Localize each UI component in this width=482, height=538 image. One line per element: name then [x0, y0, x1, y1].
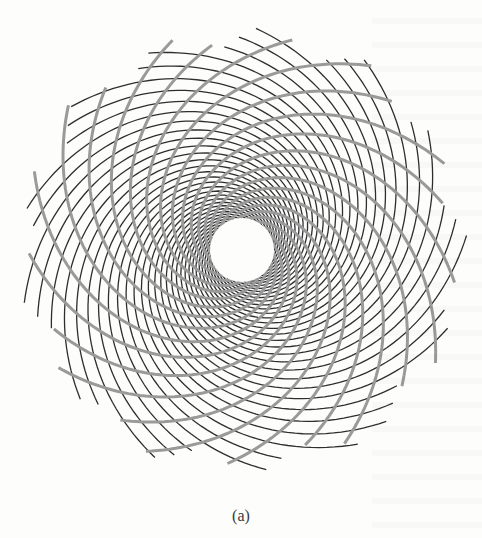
figure-caption: (a): [0, 507, 482, 525]
phyllotaxis-spiral-diagram: [0, 0, 482, 505]
center-hollow: [210, 218, 274, 282]
spiral-figure: (a): [0, 0, 482, 538]
